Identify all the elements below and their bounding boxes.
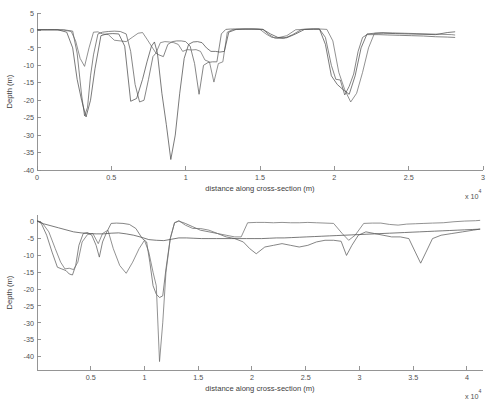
series-line-profile-3 [37, 29, 455, 159]
x-tick-label: 2 [332, 173, 336, 182]
y-tick-label: 0 [30, 26, 34, 35]
figure-canvas: 50-5-10-15-20-25-30-35-4000.511.522.53di… [0, 0, 497, 407]
x-tick-label: 1 [184, 173, 188, 182]
x-tick-label: 3 [481, 173, 485, 182]
x-tick-label: 0.5 [106, 173, 116, 182]
series-line-profile-2 [37, 29, 455, 102]
x-tick-label: 0.5 [86, 373, 96, 382]
x-tick-label: 1.5 [255, 173, 265, 182]
y-tick-label: -25 [24, 302, 34, 311]
x-axis-exponent-label: x 104 [465, 188, 482, 200]
y-tick-label: 0 [30, 217, 34, 226]
y-tick-label: 5 [30, 9, 34, 18]
y-tick-label: -40 [24, 166, 34, 175]
x-tick-label: 2.5 [404, 173, 414, 182]
series-group [37, 220, 480, 361]
plot-area-bottom: 0-5-10-15-20-25-30-35-400.511.522.533.54… [5, 215, 483, 401]
y-tick-label: -40 [24, 352, 34, 361]
y-tick-label: -20 [24, 96, 34, 105]
series-group [37, 29, 455, 159]
x-tick-label: 2 [250, 373, 254, 382]
x-axis-label: distance along cross-section (m) [205, 184, 315, 193]
y-tick-label: -20 [24, 285, 34, 294]
axis-spines [37, 13, 483, 170]
y-tick-label: -30 [24, 319, 34, 328]
y-tick-label: -25 [24, 113, 34, 122]
x-tick-label: 2.5 [301, 373, 311, 382]
y-tick-label: -15 [24, 78, 34, 87]
y-tick-label: -10 [24, 61, 34, 70]
series-line-profile-2 [37, 220, 480, 361]
x-axis-label: distance along cross-section (m) [205, 384, 315, 393]
y-axis-label: Depth (m) [5, 275, 14, 309]
y-axis-label: Depth (m) [5, 74, 14, 108]
x-axis-exponent-label: x 104 [465, 388, 482, 401]
chart-panel-top: 50-5-10-15-20-25-30-35-4000.511.522.53di… [0, 0, 497, 200]
y-tick-label: -15 [24, 268, 34, 277]
plot-area-top: 50-5-10-15-20-25-30-35-4000.511.522.53di… [5, 9, 485, 200]
y-tick-label: -5 [28, 234, 34, 243]
line-chart-top: 50-5-10-15-20-25-30-35-4000.511.522.53di… [0, 0, 497, 200]
x-tick-label: 3.5 [408, 373, 418, 382]
y-tick-label: -5 [28, 44, 34, 53]
x-tick-label: 1 [142, 373, 146, 382]
y-tick-label: -10 [24, 251, 34, 260]
line-chart-bottom: 0-5-10-15-20-25-30-35-400.511.522.533.54… [0, 200, 497, 407]
x-tick-label: 0 [35, 173, 39, 182]
chart-panel-bottom: 0-5-10-15-20-25-30-35-400.511.522.533.54… [0, 200, 497, 407]
y-tick-label: -35 [24, 148, 34, 157]
x-tick-label: 1.5 [193, 373, 203, 382]
y-tick-label: -35 [24, 335, 34, 344]
x-tick-label: 3 [357, 373, 361, 382]
x-tick-label: 4 [465, 373, 469, 382]
y-tick-label: -30 [24, 131, 34, 140]
